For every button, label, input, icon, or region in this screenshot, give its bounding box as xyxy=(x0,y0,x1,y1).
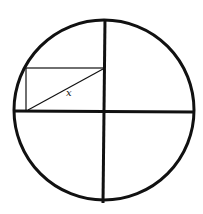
circle-diagram: x xyxy=(0,0,203,214)
diagonal-label-x: x xyxy=(66,87,72,98)
